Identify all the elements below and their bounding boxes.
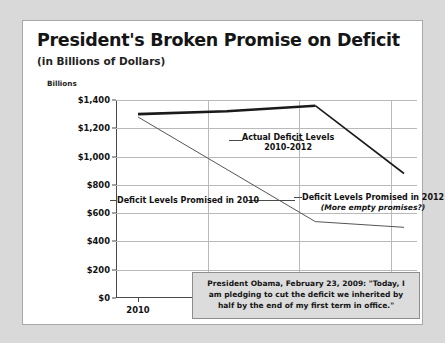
xtick-mark-2010 [138, 298, 139, 302]
quote-callout: President Obama, February 23, 2009: "Tod… [192, 272, 420, 319]
annotation-actual-deficit: Actual Deficit Levels 2010-2012 [242, 133, 334, 153]
plot-area: $1,400 $1,200 $1,000 $800 $600 $400 $200… [116, 100, 417, 298]
leader-promised-2012 [294, 197, 302, 198]
series-line-actual-deficit [138, 106, 315, 114]
ytick-label-1400: $1,400 [78, 95, 110, 105]
chart-card: President's Broken Promise on Deficit (i… [22, 20, 423, 325]
ytick-label-200: $200 [87, 265, 110, 275]
page-title: President's Broken Promise on Deficit [37, 30, 400, 50]
leader-actual-left [229, 140, 243, 141]
annotation-actual-line2: 2010-2012 [242, 143, 334, 153]
annotation-promised-2010: Deficit Levels Promised in 2010 [117, 196, 259, 206]
ytick-label-1200: $1,200 [78, 123, 110, 133]
chart-subtitle: (in Billions of Dollars) [37, 55, 165, 67]
annotation-actual-line1: Actual Deficit Levels [242, 133, 334, 142]
ytick-label-400: $400 [87, 236, 110, 246]
y-axis-units-label: Billions [47, 79, 77, 88]
ytick-label-0: $0 [98, 293, 110, 303]
ytick-label-600: $600 [87, 208, 110, 218]
annotation-promised-2012: Deficit Levels Promised in 2012 (More em… [302, 193, 444, 212]
annotation-promised-2012-line2: (More empty promises?) [302, 203, 444, 212]
leader-promised-2010 [110, 200, 117, 201]
annotation-promised-2010-label: Deficit Levels Promised in 2010 [117, 196, 259, 205]
ytick-label-1000: $1,000 [78, 152, 110, 162]
xtick-label-2010: 2010 [126, 305, 149, 315]
annotation-promised-2012-line1: Deficit Levels Promised in 2012 [302, 193, 444, 202]
quote-text: President Obama, February 23, 2009: "Tod… [207, 279, 404, 310]
ytick-label-800: $800 [87, 180, 110, 190]
